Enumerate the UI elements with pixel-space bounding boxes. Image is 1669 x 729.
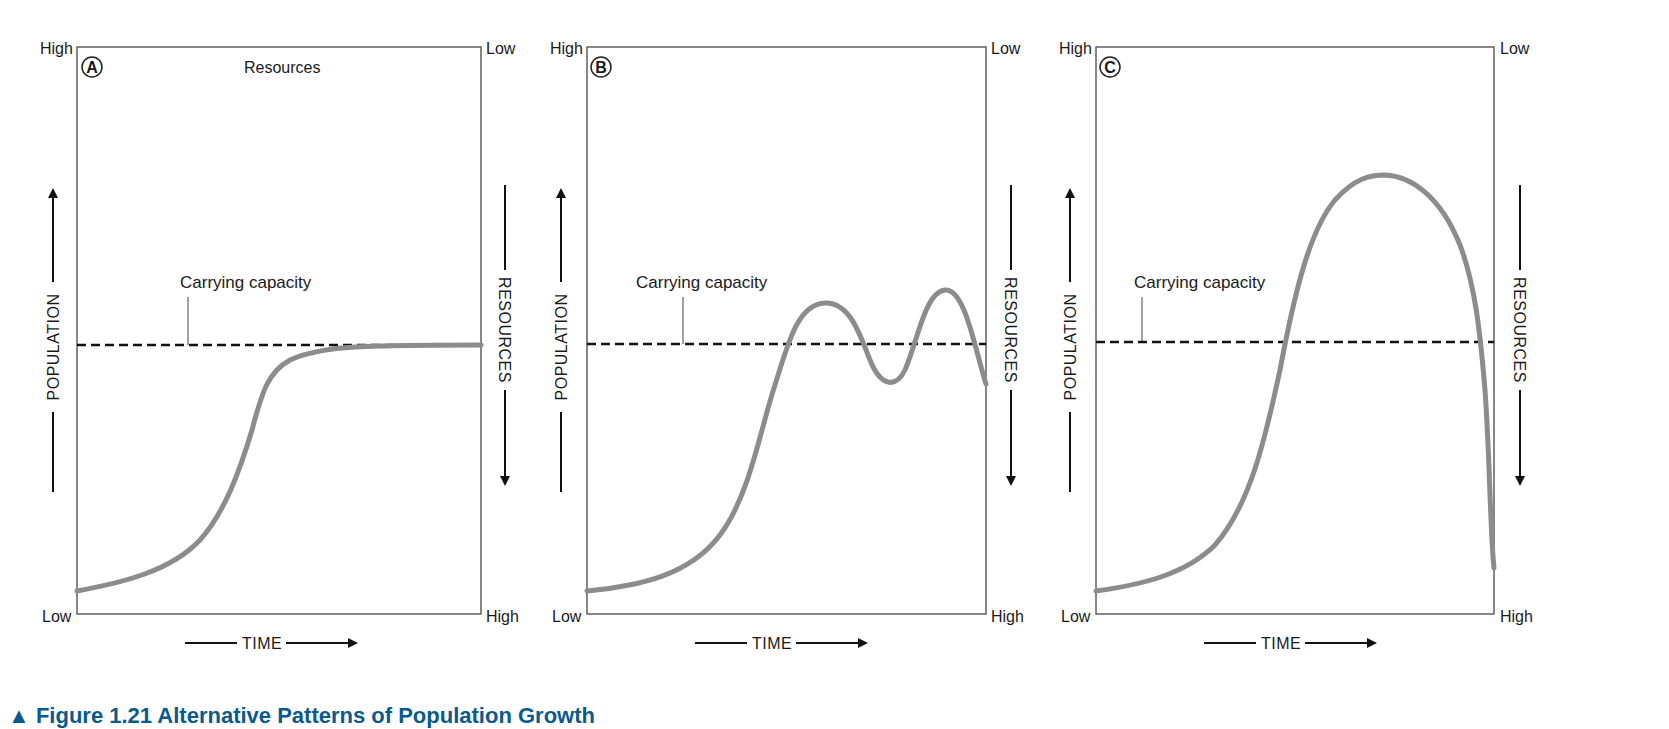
figure-caption: ▲ Figure 1.21 Alternative Patterns of Po…: [8, 703, 595, 729]
left-axis-low: Low: [42, 608, 72, 625]
panel-letter: C: [1104, 59, 1116, 76]
time-axis-title: TIME: [752, 635, 792, 652]
right-axis-high: High: [1500, 608, 1533, 625]
carrying-capacity-label: Carrying capacity: [636, 273, 768, 292]
population-axis-title: POPULATION: [553, 294, 570, 401]
right-axis-low: Low: [486, 40, 516, 57]
time-axis-title: TIME: [1261, 635, 1301, 652]
resources-axis-title: RESOURCES: [1511, 277, 1528, 383]
left-axis-high: High: [550, 40, 583, 57]
right-axis-low: Low: [1500, 40, 1530, 57]
left-axis-high: High: [1059, 40, 1092, 57]
resources-axis-title: RESOURCES: [1002, 277, 1019, 383]
left-axis-high: High: [40, 40, 73, 57]
panel-c: C High Low Low High POPULATION RESOURCES…: [1059, 40, 1533, 652]
carrying-capacity-label: Carrying capacity: [1134, 273, 1266, 292]
left-axis-low: Low: [1061, 608, 1091, 625]
time-axis-title: TIME: [242, 635, 282, 652]
plot-frame: [587, 47, 986, 614]
caption-title: Alternative Patterns of Population Growt…: [157, 703, 595, 728]
carrying-capacity-label: Carrying capacity: [180, 273, 312, 292]
population-axis-title: POPULATION: [45, 294, 62, 401]
population-curve: [77, 345, 481, 591]
left-axis-low: Low: [552, 608, 582, 625]
resources-header: Resources: [244, 59, 320, 76]
population-curve: [1096, 175, 1494, 591]
right-axis-high: High: [991, 608, 1024, 625]
right-axis-high: High: [486, 608, 519, 625]
right-axis-low: Low: [991, 40, 1021, 57]
caption-number: Figure 1.21: [36, 703, 152, 728]
panel-letter: A: [86, 59, 98, 76]
resources-axis-title: RESOURCES: [496, 277, 513, 383]
panel-b: B High Low Low High POPULATION RESOURCES…: [550, 40, 1024, 652]
panel-letter: B: [595, 59, 607, 76]
panel-a: A Resources High Low Low High POPULATION…: [40, 40, 519, 652]
population-axis-title: POPULATION: [1062, 294, 1079, 401]
caption-marker-icon: ▲: [8, 703, 30, 728]
plot-frame: [77, 47, 481, 614]
plot-frame: [1096, 47, 1494, 614]
population-curve: [587, 290, 986, 591]
